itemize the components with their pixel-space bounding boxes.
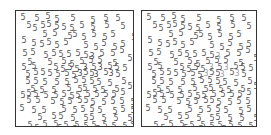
distractor-digit: 5 (21, 37, 26, 45)
distractor-digit: 5 (120, 23, 125, 31)
distractor-digit: 5 (63, 39, 68, 47)
distractor-digit: 5 (64, 70, 69, 78)
distractor-digit: 5 (206, 106, 211, 114)
distractor-digit: 5 (110, 31, 115, 39)
distractor-digit: 5 (111, 123, 116, 127)
distractor-digit: 5 (209, 42, 214, 50)
distractor-digit: 5 (70, 15, 75, 23)
distractor-digit: 5 (130, 122, 134, 127)
distractor-digit: 5 (110, 98, 115, 106)
distractor-digit: 5 (172, 39, 177, 47)
distractor-digit: 5 (46, 21, 51, 29)
distractor-digit: 5 (80, 106, 85, 114)
distractor-digit: 5 (256, 107, 257, 115)
distractor-digit: 5 (34, 125, 39, 127)
distractor-digit: 5 (196, 15, 201, 23)
distractor-digit: 5 (83, 42, 88, 50)
distractor-digit: 5 (158, 25, 163, 33)
distractor-digit: 5 (83, 123, 88, 127)
distractor-digit: 5 (120, 89, 125, 97)
distractor-digit: 5 (122, 65, 127, 73)
distractor-digit: 5 (102, 122, 107, 127)
distractor-digit: 5 (40, 22, 45, 30)
distractor-digit: 5 (236, 50, 241, 58)
distractor-digit: 5 (241, 71, 246, 79)
distractor-digit: 5 (46, 39, 51, 47)
distractor-digit: 5 (168, 121, 173, 127)
distractor-digit: 5 (30, 49, 35, 57)
distractor-digit: 5 (39, 41, 44, 49)
distractor-digit: 5 (146, 92, 151, 100)
distractor-digit: 5 (115, 71, 120, 79)
distractor-digit: 5 (205, 22, 210, 30)
distractor-digit: 5 (40, 69, 45, 77)
distractor-digit: 5 (253, 115, 257, 123)
distractor-digit: 5 (209, 97, 214, 105)
distractor-digit: 5 (183, 125, 188, 127)
distractor-digit: 5 (228, 122, 233, 127)
distractor-digit: 5 (73, 77, 78, 85)
distractor-digit: 5 (236, 31, 241, 39)
distractor-digit: 5 (227, 40, 232, 48)
distractor-digit: 5 (101, 40, 106, 48)
distractor-digit: 5 (189, 122, 194, 127)
distractor-digit: 5 (247, 78, 252, 86)
distractor-digit: 5 (120, 106, 125, 114)
distractor-digit: 5 (104, 22, 109, 30)
distractor-digit: 5 (145, 105, 150, 113)
distractor-digit: 5 (20, 92, 25, 100)
distractor-digit: 5 (153, 122, 158, 127)
distractor-digit: 5 (42, 121, 47, 127)
distractor-digit: 5 (253, 55, 257, 63)
distractor-digit: 5 (203, 97, 208, 105)
distractor-digit: 5 (121, 78, 126, 86)
distractor-digit: 5 (246, 89, 251, 97)
distractor-digit: 5 (166, 69, 171, 77)
distractor-digit: 5 (172, 21, 177, 29)
stimulus-panel-right: 5555555555555555555555555555555555555555… (141, 10, 257, 127)
distractor-digit: 5 (63, 122, 68, 127)
distractor-digit: 5 (31, 107, 36, 115)
distractor-digit: 5 (176, 98, 181, 106)
distractor-digit: 5 (119, 47, 124, 55)
distractor-digit: 5 (187, 24, 192, 32)
distractor-digit: 5 (166, 22, 171, 30)
distractor-digit: 5 (107, 80, 112, 88)
distractor-digit: 5 (57, 125, 62, 127)
distractor-digit: 5 (189, 39, 194, 47)
distractor-digit: 5 (95, 126, 100, 127)
distractor-digit: 5 (67, 98, 72, 106)
distractor-digit: 5 (50, 98, 55, 106)
distractor-digit: 5 (184, 113, 189, 121)
distractor-digit: 5 (157, 107, 162, 115)
distractor-digit: 5 (61, 24, 66, 32)
distractor-digit: 5 (152, 97, 157, 105)
distractor-digit: 5 (192, 51, 197, 59)
distractor-digit: 5 (160, 125, 165, 127)
distractor-digit: 5 (148, 50, 153, 58)
distractor-digit: 5 (110, 50, 115, 58)
distractor-digit: 5 (152, 22, 157, 30)
distractor-digit: 5 (173, 70, 178, 78)
distractor-digit: 5 (122, 123, 127, 127)
distractor-digit: 5 (253, 83, 257, 91)
distractor-digit: 5 (91, 31, 96, 39)
distractor-digit: 5 (27, 122, 32, 127)
distractor-digit: 5 (31, 40, 36, 48)
distractor-digit: 5 (256, 122, 257, 127)
distractor-digit: 5 (19, 105, 24, 113)
distractor-digit: 5 (58, 113, 63, 121)
distractor-digit: 5 (32, 25, 37, 33)
distractor-digit: 5 (26, 97, 31, 105)
distractor-digit: 5 (245, 47, 250, 55)
distractor-digit: 5 (198, 126, 203, 127)
distractor-digit: 5 (127, 83, 132, 91)
stimulus-panel-left: 5555555555555555555555555555555555555555… (15, 10, 134, 127)
distractor-digit: 5 (35, 97, 40, 105)
distractor-digit: 5 (199, 77, 204, 85)
distractor-digit: 5 (20, 14, 25, 22)
distractor-digit: 5 (246, 23, 251, 31)
distractor-digit: 5 (193, 98, 198, 106)
distractor-digit: 5 (221, 126, 226, 127)
distractor-digit: 5 (131, 34, 134, 42)
